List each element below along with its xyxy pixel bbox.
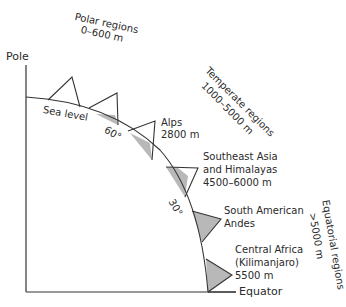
andes-name-line1: South American [224,205,304,217]
kilimanjaro-shade [206,259,232,292]
himalayas-altitude: 4500–6000 m [203,177,272,189]
equator-label: Equator [239,286,282,298]
himalayas-name-line1: Southeast Asia [203,151,278,163]
himalayas-name-line2: and Himalayas [203,164,277,176]
kilimanjaro-name-line2: (Kilimanjaro) [235,257,299,269]
kilimanjaro-altitude: 5500 m [235,270,273,282]
alps-shade [130,133,152,160]
mountain-polar-1 [48,77,80,107]
kilimanjaro-name-line1: Central Africa [235,244,303,256]
andes-name-line2: Andes [224,218,255,230]
alps-altitude: 2800 m [161,129,199,141]
alps-name: Alps [161,117,182,129]
himalaya-shade [166,167,188,197]
pole-label: Pole [6,51,29,63]
